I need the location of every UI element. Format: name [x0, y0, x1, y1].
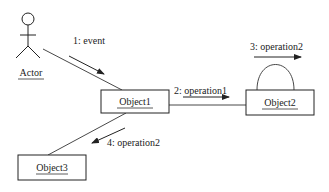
link-object1-object3: [48, 113, 126, 155]
link-actor-object1: [43, 49, 122, 90]
message-3-label: 3: operation2: [250, 41, 303, 52]
self-link-object2: [257, 65, 294, 91]
message-1-label: 1: event: [73, 35, 105, 46]
actor-label: Actor: [20, 67, 43, 78]
message-2-label: 2: operation1: [174, 85, 227, 96]
object1-label: Object1: [119, 96, 151, 107]
message-4-label: 4: operation2: [107, 137, 160, 148]
collaboration-diagram: Actor Object1 Object2 Object3 1: event 2…: [0, 0, 329, 192]
object2-label: Object2: [264, 97, 296, 108]
object3-box[interactable]: Object3: [18, 155, 86, 180]
actor-icon: [16, 13, 40, 58]
object1-box[interactable]: Object1: [101, 90, 169, 113]
object3-label: Object3: [36, 162, 68, 173]
object2-box[interactable]: Object2: [246, 90, 314, 115]
